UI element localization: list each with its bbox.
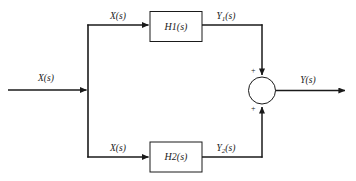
summing-junction-circle bbox=[249, 77, 276, 104]
bottom-branch-output-label-y2: Y2(s) bbox=[216, 144, 235, 155]
top-branch-output-label-y1: Y1(s) bbox=[216, 12, 235, 23]
bottom-branch-signal-label-x: X(s) bbox=[110, 144, 126, 154]
summing-junction-plus-bottom: + bbox=[251, 105, 256, 113]
input-label-x: X(s) bbox=[38, 74, 54, 84]
block-diagram-canvas: X(s) X(s) H1(s) Y1(s) X(s) H2(s) Y2(s) +… bbox=[0, 0, 356, 181]
block-label-h1: H1(s) bbox=[150, 22, 202, 32]
output-label-y: Y(s) bbox=[300, 76, 316, 86]
summing-junction-plus-top: + bbox=[251, 67, 256, 75]
block-label-h2: H2(s) bbox=[150, 152, 202, 162]
top-branch-signal-label-x: X(s) bbox=[110, 12, 126, 22]
